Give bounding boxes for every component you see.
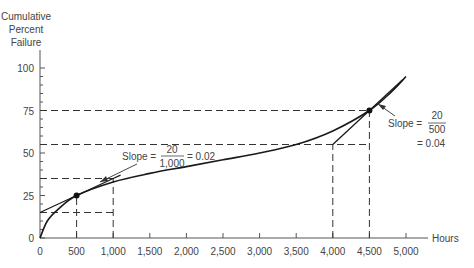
slope-1-numerator: 20 [166, 144, 178, 155]
x-tick-label: 3,500 [284, 246, 309, 257]
y-tick-label: 25 [23, 191, 35, 202]
slope-2-prefix: Slope = [388, 118, 422, 129]
y-axis-label-line-2: Percent [9, 24, 44, 35]
slope-2-result: = 0.04 [417, 138, 446, 149]
y-tick-label: 100 [17, 63, 34, 74]
slope-1-prefix: Slope = [122, 151, 156, 162]
tangent-point [366, 108, 372, 114]
tangent-points [74, 108, 373, 199]
x-tick-label: 2,000 [174, 246, 199, 257]
x-tick-label: 2,500 [210, 246, 235, 257]
y-axis-label-line-3: Failure [11, 37, 42, 48]
cumulative-failure-chart: Cumulative Percent Failure Hours 0255075… [0, 0, 474, 268]
x-tick-label: 1,000 [101, 246, 126, 257]
x-tick-label: 3,000 [247, 246, 272, 257]
slope-annotation-2: Slope = 20 500 = 0.04 [378, 104, 446, 149]
y-tick-label: 0 [28, 233, 34, 244]
slope-2-denominator: 500 [429, 124, 446, 135]
y-tick-label: 75 [23, 106, 35, 117]
x-tick-label: 4,000 [320, 246, 345, 257]
y-axis-label-line-1: Cumulative [1, 11, 51, 22]
reference-dashed-lines [40, 111, 369, 239]
x-tick-label: 1,500 [137, 246, 162, 257]
x-axis-label: Hours [432, 233, 459, 244]
y-ticks: 0255075100 [17, 63, 45, 244]
x-tick-label: 500 [68, 246, 85, 257]
slope-2-numerator: 20 [431, 110, 443, 121]
x-tick-label: 4,500 [357, 246, 382, 257]
tangent-line-500h [40, 175, 121, 212]
x-tick-label: 5,000 [393, 246, 418, 257]
y-tick-label: 50 [23, 148, 35, 159]
slope-1-result: = 0.02 [187, 151, 216, 162]
slope-1-denominator: 1,000 [159, 158, 184, 169]
x-ticks: 05001,0001,5002,0002,5003,0003,5004,0004… [37, 233, 419, 257]
failure-curve [40, 77, 406, 239]
x-tick-label: 0 [37, 246, 43, 257]
tangent-point [74, 193, 80, 199]
